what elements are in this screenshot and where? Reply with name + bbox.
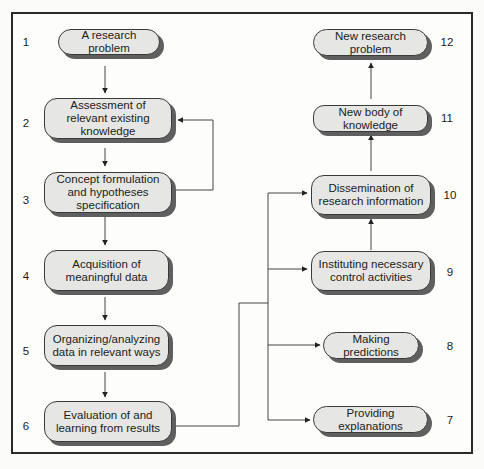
step-number-7: 7 [440, 414, 460, 426]
step-label-9: Instituting necessary control activities [318, 258, 424, 284]
step-number-2: 2 [16, 117, 36, 129]
step-box-12: New research problem [313, 29, 428, 56]
step-number-11: 11 [437, 112, 457, 124]
step-label-11: New body of knowledge [320, 106, 421, 132]
step-number-5: 5 [16, 345, 36, 357]
step-label-2: Assessment of relevant existing knowledg… [51, 99, 165, 138]
step-label-5: Organizing/analyzing data in relevant wa… [51, 333, 162, 359]
step-box-1: A research problem [58, 29, 160, 55]
step-label-3: Concept formulation and hypotheses speci… [51, 173, 165, 212]
step-box-8: Making predictions [323, 332, 419, 359]
step-label-4: Acquisition of meaningful data [51, 258, 162, 284]
step-number-3: 3 [16, 194, 36, 206]
step-box-6: Evaluation of and learning from results [44, 401, 172, 442]
step-label-8: Making predictions [330, 333, 412, 359]
step-number-9: 9 [440, 266, 460, 278]
step-box-9: Instituting necessary control activities [311, 251, 431, 291]
step-box-5: Organizing/analyzing data in relevant wa… [44, 325, 169, 366]
step-number-12: 12 [437, 36, 457, 48]
step-box-2: Assessment of relevant existing knowledg… [44, 98, 172, 139]
step-label-7: Providing explanations [320, 407, 421, 433]
step-box-7: Providing explanations [313, 406, 428, 433]
step-box-11: New body of knowledge [313, 105, 428, 132]
step-label-1: A research problem [65, 29, 153, 55]
step-box-10: Dissemination of research information [311, 175, 431, 215]
step-label-6: Evaluation of and learning from results [51, 409, 165, 435]
step-label-10: Dissemination of research information [318, 182, 424, 208]
step-label-12: New research problem [320, 30, 421, 56]
step-number-8: 8 [440, 340, 460, 352]
connector-lines [0, 0, 484, 469]
step-number-1: 1 [16, 36, 36, 48]
step-number-6: 6 [16, 420, 36, 432]
step-number-10: 10 [440, 189, 460, 201]
step-box-4: Acquisition of meaningful data [44, 250, 169, 291]
step-box-3: Concept formulation and hypotheses speci… [44, 172, 172, 213]
step-number-4: 4 [16, 270, 36, 282]
